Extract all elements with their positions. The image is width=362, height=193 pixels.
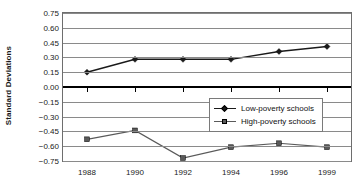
legend-key-diamond-icon <box>214 103 236 114</box>
data-point-marker <box>277 141 282 146</box>
x-axis-tick <box>183 88 184 92</box>
x-axis-tick-labels: 198819901992199419961999 <box>62 166 352 180</box>
data-point-marker <box>181 156 186 161</box>
series-low-poverty <box>84 44 330 76</box>
y-tick-label: 0.00 <box>43 83 59 92</box>
series-high-poverty <box>85 128 330 160</box>
plot-area: Low-poverty schoolsHigh-poverty schools <box>62 12 352 162</box>
chart-legend: Low-poverty schoolsHigh-poverty schools <box>209 98 323 132</box>
legend-item[interactable]: Low-poverty schools <box>214 102 316 115</box>
gridline <box>63 72 351 73</box>
x-axis-tick <box>87 88 88 92</box>
line-chart: Standard Deviations 0.750.600.450.300.15… <box>0 0 362 193</box>
y-tick-label: 0.75 <box>43 9 59 18</box>
y-tick-label: −0.60 <box>39 142 59 151</box>
legend-key-marker <box>222 119 227 124</box>
gridline <box>63 28 351 29</box>
zero-gridline <box>63 86 351 88</box>
y-tick-label: −0.30 <box>39 112 59 121</box>
x-tick-label: 1994 <box>222 168 240 177</box>
y-tick-label: 0.60 <box>43 23 59 32</box>
y-tick-label: 0.15 <box>43 68 59 77</box>
y-tick-label: 0.45 <box>43 38 59 47</box>
x-axis-tick <box>231 88 232 92</box>
x-tick-label: 1992 <box>174 168 192 177</box>
x-axis-tick <box>279 88 280 92</box>
gridline <box>63 161 351 162</box>
data-point-marker <box>85 137 90 142</box>
gridline <box>63 146 351 147</box>
y-axis-tick-labels: 0.750.600.450.300.150.00−0.15−0.30−0.45−… <box>18 0 62 170</box>
y-tick-label: 0.30 <box>43 53 59 62</box>
legend-item-label: Low-poverty schools <box>241 104 314 113</box>
plot-inner <box>63 13 351 161</box>
gridline <box>63 57 351 58</box>
gridline <box>63 43 351 44</box>
data-point-marker <box>276 48 282 54</box>
series-line <box>87 47 327 73</box>
y-tick-label: −0.45 <box>39 127 59 136</box>
x-tick-label: 1990 <box>126 168 144 177</box>
x-axis-tick <box>135 88 136 92</box>
y-axis-title-label: Standard Deviations <box>5 45 14 124</box>
y-tick-label: −0.75 <box>39 157 59 166</box>
x-axis-tick <box>327 88 328 92</box>
legend-key-square-icon <box>214 116 236 127</box>
legend-item-label: High-poverty schools <box>241 117 316 126</box>
x-tick-label: 1988 <box>78 168 96 177</box>
x-tick-label: 1996 <box>270 168 288 177</box>
y-axis-title: Standard Deviations <box>0 0 18 170</box>
gridline <box>63 13 351 14</box>
data-point-marker <box>324 44 330 50</box>
legend-item[interactable]: High-poverty schools <box>214 115 316 128</box>
legend-key-marker <box>221 105 228 112</box>
series-line <box>87 130 327 158</box>
x-tick-label: 1999 <box>318 168 336 177</box>
y-tick-label: −0.15 <box>39 97 59 106</box>
